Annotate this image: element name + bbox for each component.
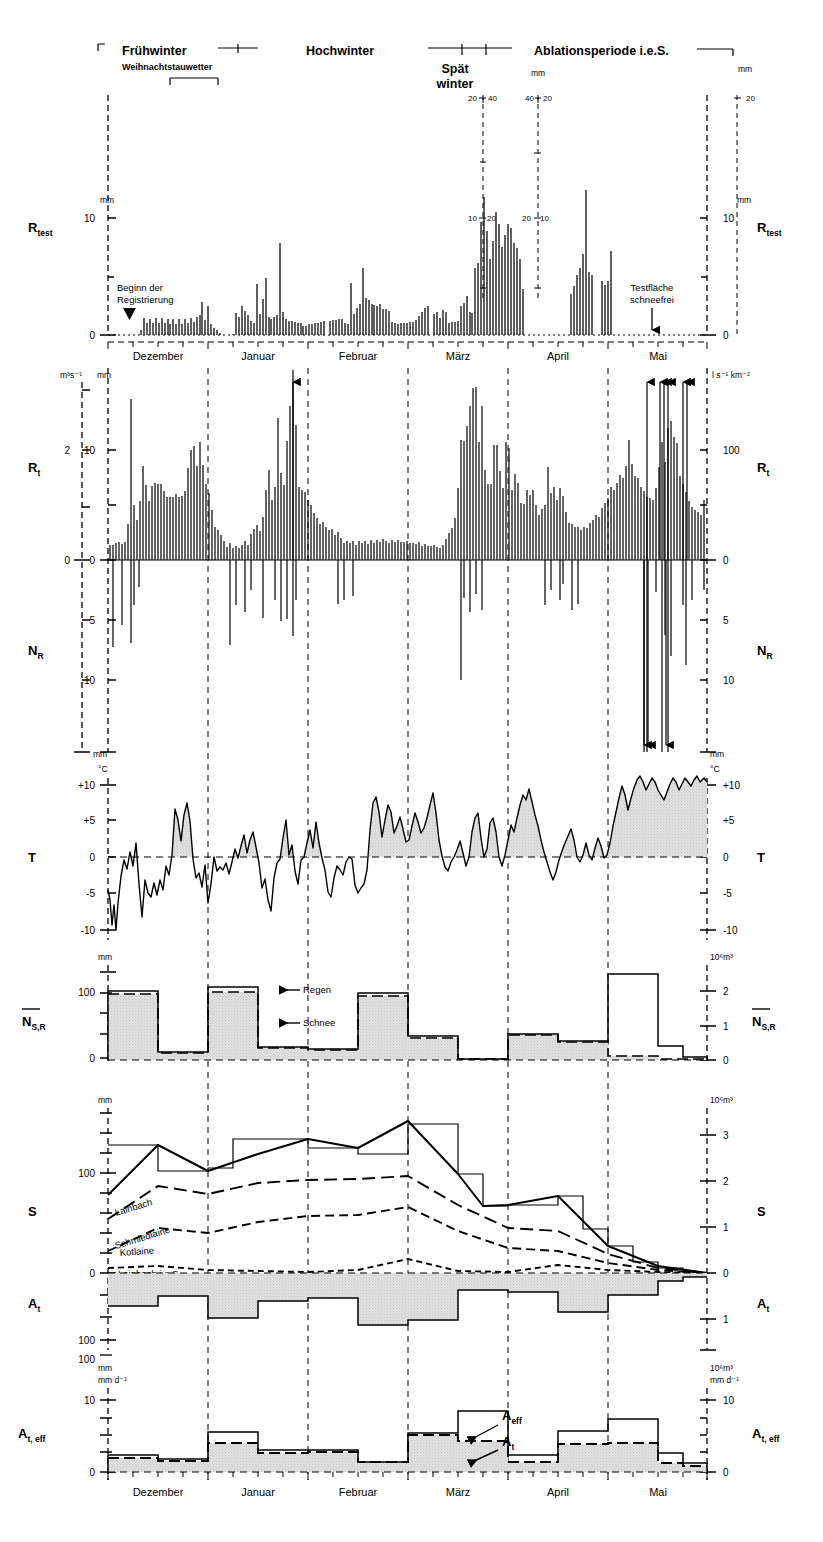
phase-label-fruehwinter: Frühwinter	[122, 44, 187, 58]
s-tick-right-3: 3	[723, 1130, 729, 1141]
rt-tick-mm-10: 10	[84, 445, 96, 456]
nr-tick-right-10: 10	[723, 675, 735, 686]
t-tick-0-right: 0	[723, 852, 729, 863]
t-unit-right: °C	[710, 764, 720, 774]
at-tick-right-1: 1	[723, 1314, 729, 1325]
s-tick-100: 100	[78, 1168, 95, 1179]
schneefrei-label: schneefrei	[630, 294, 674, 305]
rt-tick-right-100: 100	[723, 445, 740, 456]
s-unit-left: mm	[98, 1095, 112, 1105]
nsr-tick-0: 0	[89, 1053, 95, 1064]
t-tick-p10-right: +10	[723, 780, 740, 791]
offscale-unit-mm-right: mm	[738, 64, 752, 74]
rt-tick-right-0: 0	[723, 555, 729, 566]
at-tick-100: 100	[78, 1335, 95, 1346]
t-tick-p5: +5	[84, 815, 96, 826]
ateff-tick-0: 0	[89, 1467, 95, 1478]
panel-label-t-right: T	[757, 850, 765, 865]
rt-tick-mm-0: 0	[89, 555, 95, 566]
month-label-maerz-upper: März	[446, 350, 470, 362]
month-label-april-upper: April	[547, 350, 569, 362]
month-label-dezember-lower: Dezember	[133, 1486, 184, 1498]
ateff-tick-right-10: 10	[723, 1395, 735, 1406]
s-tick-0: 0	[89, 1268, 95, 1279]
figure-root: Frühwinter Weihnachtstauwetter Hochwinte…	[0, 0, 823, 1542]
phase-label-weihnachtstauwetter: Weihnachtstauwetter	[122, 62, 213, 72]
r-test-tick-10-right: 10	[723, 213, 735, 224]
nr-unit-left-bottom: mm	[93, 749, 107, 759]
nr-tick-mm-10: 10	[84, 675, 96, 686]
offscale-num-left-40: 40	[488, 94, 497, 103]
offscale-num-mid-10b: 10	[540, 214, 549, 223]
t-tick-0: 0	[89, 852, 95, 863]
regen-label: Regen	[303, 984, 331, 995]
r-test-unit-right: mm	[737, 195, 751, 205]
nsr-tick-right-0: 0	[723, 1055, 729, 1066]
r-test-tick-0-right: 0	[723, 330, 729, 341]
offscale-num-far-20: 20	[746, 94, 755, 103]
month-label-mai-upper: Mai	[649, 350, 667, 362]
phase-label-spaet: Spät	[441, 62, 469, 76]
offscale-num-left-20: 20	[468, 94, 477, 103]
beginn-der-label: Beginn der	[117, 282, 163, 293]
schnee-label: Schnee	[303, 1017, 335, 1028]
nsr-tick-100: 100	[78, 987, 95, 998]
ateff-tick-100: 100	[78, 1354, 95, 1365]
rt-unit-right: l s⁻¹ km⁻²	[712, 370, 750, 380]
month-label-maerz-lower: März	[446, 1486, 470, 1498]
offscale-num-right-40: 40	[525, 94, 534, 103]
offscale-unit-mm-left: mm	[531, 68, 545, 78]
nr-tick-right-5: 5	[723, 615, 729, 626]
month-label-januar-upper: Januar	[241, 350, 275, 362]
rt-unit-left-a: m³s⁻¹	[60, 370, 82, 380]
s-unit-right: 10⁶m³	[710, 1095, 733, 1105]
panel-label-s: S	[28, 1204, 37, 1219]
month-label-januar-lower: Januar	[241, 1486, 275, 1498]
r-test-unit-left: mm	[100, 195, 114, 205]
ateff-unit-right-b: mm d⁻¹	[710, 1375, 739, 1385]
month-label-februar-upper: Februar	[339, 350, 378, 362]
s-tick-right-0: 0	[723, 1268, 729, 1279]
r-test-tick-0-left: 0	[89, 330, 95, 341]
phase-label-spaetwinter2: winter	[436, 77, 474, 91]
nr-tick-mm-5: 5	[89, 615, 95, 626]
r-test-tick-10-left: 10	[84, 213, 96, 224]
ateff-unit-left-a: mm	[98, 1363, 112, 1373]
t-tick-p10: +10	[78, 780, 95, 791]
ateff-tick-right-0: 0	[723, 1467, 729, 1478]
month-label-mai-lower: Mai	[649, 1486, 667, 1498]
offscale-num-mid-10a: 10	[468, 214, 477, 223]
s-tick-right-2: 2	[723, 1176, 729, 1187]
ateff-unit-right-a: 10⁶m³	[710, 1363, 733, 1373]
s-tick-right-1: 1	[723, 1222, 729, 1233]
rt-unit-left-b: mm	[97, 370, 111, 380]
rt-tick-left-0: 0	[64, 555, 70, 566]
registrierung-label: Registrierung	[117, 294, 174, 305]
month-label-dezember-upper: Dezember	[133, 350, 184, 362]
nsr-tick-right-2: 2	[723, 986, 729, 997]
t-tick-m10-right: -10	[723, 925, 738, 936]
nr-unit-right-bottom: mm	[710, 749, 724, 759]
testflaeche-label: Testfläche	[631, 282, 674, 293]
offscale-num-mid-20b: 20	[522, 214, 531, 223]
offscale-num-mid-20a: 20	[487, 214, 496, 223]
t-tick-m5: -5	[86, 888, 95, 899]
rt-tick-left-2: 2	[64, 445, 70, 456]
ateff-tick-10: 10	[84, 1395, 96, 1406]
month-label-februar-lower: Februar	[339, 1486, 378, 1498]
t-tick-m10: -10	[81, 925, 96, 936]
offscale-num-right-20: 20	[543, 94, 552, 103]
ateff-unit-left-b: mm d⁻¹	[98, 1375, 127, 1385]
nsr-unit-left: mm	[98, 952, 112, 962]
nsr-unit-right: 10⁶m³	[710, 952, 733, 962]
phase-label-hochwinter: Hochwinter	[306, 44, 374, 58]
nsr-tick-right-1: 1	[723, 1021, 729, 1032]
t-tick-p5-right: +5	[723, 815, 735, 826]
t-tick-m5-right: -5	[723, 888, 732, 899]
phase-label-ablationsperiode: Ablationsperiode i.e.S.	[534, 44, 669, 58]
t-unit-left: °C	[98, 764, 108, 774]
hydrology-figure-svg: Frühwinter Weihnachtstauwetter Hochwinte…	[0, 0, 823, 1542]
month-label-april-lower: April	[547, 1486, 569, 1498]
panel-label-s-right: S	[757, 1204, 766, 1219]
panel-label-t: T	[28, 850, 36, 865]
